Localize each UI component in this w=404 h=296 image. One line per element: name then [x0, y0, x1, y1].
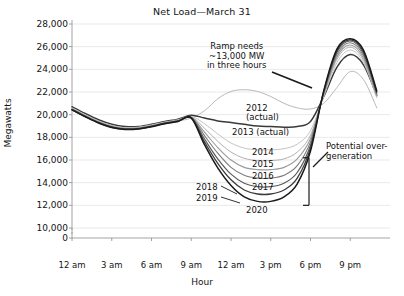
series-label-2020: 2020 — [246, 206, 268, 215]
label-2019-leader — [221, 197, 240, 203]
series-label-line: 2018 — [196, 183, 218, 192]
series-label-2014: 2014 — [252, 148, 274, 157]
series-label-line: 2014 — [252, 148, 274, 157]
series-label-line: (actual) — [246, 113, 279, 122]
series-label-2017: 2017 — [252, 183, 274, 192]
series-label-2013-actual-: 2013 (actual) — [232, 128, 289, 137]
series-label-line: 2020 — [246, 206, 268, 215]
series-label-line: 2015 — [252, 160, 274, 169]
annotation-line: in three hours — [207, 61, 267, 71]
series-label-2018: 2018 — [196, 183, 218, 192]
series-label-line: 2016 — [252, 172, 274, 181]
series-label-2015: 2015 — [252, 160, 274, 169]
ramp-needs-leader-line — [272, 72, 312, 88]
series-label-2016: 2016 — [252, 172, 274, 181]
chart-figure: Net Load—March 31 Megawatts Hour 010,000… — [0, 0, 404, 296]
series-label-2012-actual-: 2012(actual) — [246, 104, 279, 122]
annotation-ramp-needs: Ramp needs~13,000 MWin three hours — [207, 42, 267, 71]
series-label-2019: 2019 — [196, 194, 218, 203]
series-label-line: 2017 — [252, 183, 274, 192]
annotation-line: generation — [326, 152, 387, 162]
series-label-line: 2019 — [196, 194, 218, 203]
series-label-line: 2013 (actual) — [232, 128, 289, 137]
annotation-potential-overgeneration: Potential over-generation — [326, 142, 387, 161]
